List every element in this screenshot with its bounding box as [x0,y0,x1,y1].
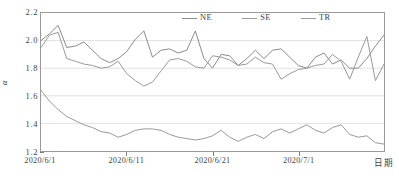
legend-label: TR [319,14,331,22]
chart-legend: NESETR [182,14,331,22]
x-tick-label: 2020/6/21 [195,156,231,165]
y-tick-label: 1.6 [4,92,38,101]
series-line-ne [41,25,384,68]
legend-label: SE [260,14,271,22]
y-tick-label: 1.8 [4,64,38,73]
x-tick-mark [213,152,214,156]
x-tick-mark [126,152,127,156]
plot-area [40,12,385,152]
legend-item-ne[interactable]: NE [182,14,212,22]
x-tick-label: 2020/6/1 [24,156,56,165]
x-axis-title: 日期 [374,156,393,168]
legend-line-icon [301,18,316,19]
legend-line-icon [182,18,197,19]
y-tick-label: 2.2 [4,8,38,17]
y-tick-label: 1.4 [4,120,38,129]
legend-label: NE [200,14,212,22]
x-tick-label: 2020/6/11 [108,156,144,165]
series-canvas [41,13,384,151]
x-tick-label: 2020/7/1 [283,156,315,165]
y-axis-tick-labels: 2.22.01.81.61.41.2 [0,0,38,178]
y-tick-label: 1.2 [4,148,38,157]
x-tick-mark [299,152,300,156]
legend-item-se[interactable]: SE [242,14,271,22]
chart-container: α 2.22.01.81.61.41.2 2020/6/12020/6/1120… [0,0,399,178]
y-tick-mark [40,152,44,153]
y-tick-label: 2.0 [4,36,38,45]
legend-line-icon [242,18,257,19]
legend-item-tr[interactable]: TR [301,14,331,22]
series-line-tr [41,90,384,144]
